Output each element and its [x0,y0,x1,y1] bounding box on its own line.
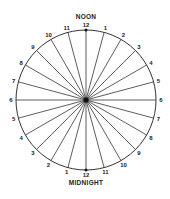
hour-label: 5 [12,116,15,122]
hour-label: 2 [47,162,50,168]
hour-label: 3 [31,150,34,156]
hour-label: 7 [157,116,160,122]
hour-label: 10 [45,32,52,38]
clock-diagram: 121234567891011121234567891011 NOON MIDN… [0,0,170,199]
hour-label: 4 [19,135,22,141]
hour-label: 6 [9,97,12,103]
hour-label: 11 [102,169,108,175]
noon-title: NOON [76,14,97,21]
hour-label: 1 [65,169,68,175]
hour-label: 2 [122,32,125,38]
hour-label: 12 [83,172,90,178]
hour-label: 9 [31,44,34,50]
hour-label: 8 [149,135,152,141]
hour-label: 3 [137,44,140,50]
hour-label: 1 [104,25,107,31]
hour-label: 12 [83,22,90,28]
hour-label: 6 [159,97,162,103]
hour-label: 9 [137,150,140,156]
midnight-title: MIDNIGHT [69,180,104,187]
hour-label: 5 [157,78,160,84]
hour-label: 10 [120,162,127,168]
center-hub [84,98,89,103]
hour-label: 7 [12,78,15,84]
hour-label: 8 [19,60,22,66]
clock-dial [0,0,170,199]
hour-label: 4 [149,60,152,66]
noon-marker-dot [85,29,88,32]
hour-label: 11 [63,25,69,31]
